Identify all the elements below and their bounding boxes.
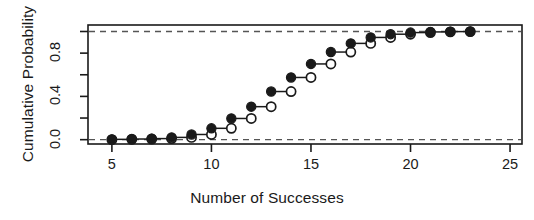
x-tick-label: 20 <box>402 156 418 172</box>
closed-endpoint-markers <box>107 27 475 144</box>
data-point-open <box>346 47 355 56</box>
data-point-filled <box>406 28 415 37</box>
y-tick-label: 0.4 <box>47 78 63 112</box>
x-tick-label: 25 <box>502 156 518 172</box>
data-point-filled <box>446 27 455 36</box>
data-point-filled <box>306 59 315 68</box>
data-point-open <box>326 59 335 68</box>
step-segments <box>112 32 470 140</box>
data-point-filled <box>147 134 156 143</box>
data-point-filled <box>247 102 256 111</box>
data-point-filled <box>386 30 395 39</box>
data-point-filled <box>107 135 116 144</box>
data-point-filled <box>326 47 335 56</box>
data-point-open <box>247 114 256 123</box>
x-axis-title: Number of Successes <box>0 189 534 207</box>
chart-canvas <box>0 0 534 220</box>
data-point-open <box>286 87 295 96</box>
data-point-filled <box>346 39 355 48</box>
data-point-filled <box>366 33 375 42</box>
open-endpoint-markers <box>107 27 475 144</box>
data-point-filled <box>286 73 295 82</box>
y-axis-title: Cumulative Probability <box>19 0 41 172</box>
y-tick-label: 0.8 <box>47 35 63 69</box>
data-point-filled <box>267 87 276 96</box>
y-tick-label: 0.0 <box>47 122 63 156</box>
x-tick-label: 5 <box>108 156 116 172</box>
data-point-filled <box>167 133 176 142</box>
data-point-filled <box>426 27 435 36</box>
data-point-open <box>227 124 236 133</box>
data-point-open <box>306 73 315 82</box>
data-point-filled <box>127 134 136 143</box>
plot-frame <box>88 25 522 144</box>
x-tick-label: 10 <box>203 156 219 172</box>
data-point-filled <box>207 124 216 133</box>
data-point-filled <box>227 114 236 123</box>
data-point-filled <box>466 27 475 36</box>
x-tick-label: 15 <box>303 156 319 172</box>
figure-plot-area: Cumulative Probability Number of Success… <box>0 0 534 220</box>
data-point-open <box>267 102 276 111</box>
data-point-filled <box>187 130 196 139</box>
